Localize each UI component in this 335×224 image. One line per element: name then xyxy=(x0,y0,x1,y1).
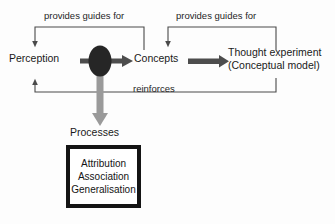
processing-node-ellipse xyxy=(89,46,112,77)
node-processes-label: Processes xyxy=(70,126,119,138)
processes-item-generalisation: Generalisation xyxy=(71,183,135,196)
processes-box: Attribution Association Generalisation xyxy=(66,145,141,208)
edge-label-reinforces: reinforces xyxy=(133,83,175,94)
diagram-connectors xyxy=(0,0,335,224)
diagram-canvas: Perception Concepts Thought experiment (… xyxy=(0,0,335,224)
processes-item-association: Association xyxy=(78,170,129,183)
edge-concepts-to-perception xyxy=(35,27,144,50)
node-perception: Perception xyxy=(9,52,59,64)
node-thought-experiment-line2: (Conceptual model) xyxy=(228,59,321,72)
arrow-concepts-to-thought xyxy=(188,55,229,67)
processes-item-attribution: Attribution xyxy=(81,157,126,170)
edge-label-provides-guides-for-left: provides guides for xyxy=(44,10,124,21)
node-concepts: Concepts xyxy=(134,52,178,64)
edge-label-provides-guides-for-right: provides guides for xyxy=(176,10,256,21)
node-thought-experiment-line1: Thought experiment xyxy=(228,46,321,59)
node-thought-experiment: Thought experiment (Conceptual model) xyxy=(228,46,321,72)
